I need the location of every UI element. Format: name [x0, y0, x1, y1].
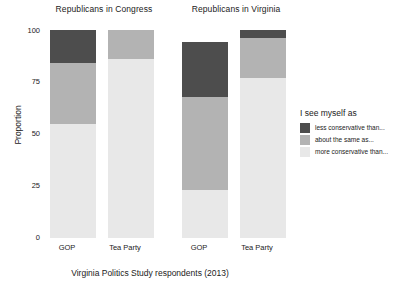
- legend-item-0[interactable]: less conservative than...: [300, 122, 406, 133]
- segment-more-conservative: [240, 78, 286, 238]
- legend-items: less conservative than...about the same …: [300, 122, 406, 157]
- x-tick-congress-gop: GOP: [37, 243, 97, 252]
- stacked-bar-chart: Republicans in Congress Republicans in V…: [0, 0, 408, 292]
- segment-about-same: [108, 30, 154, 59]
- y-axis-label: Proportion: [13, 85, 23, 165]
- segment-less-conservative: [50, 30, 96, 63]
- legend-item-2[interactable]: more conservative than...: [300, 146, 406, 157]
- y-tick-0: 0: [24, 233, 40, 242]
- x-tick-congress-tea-party: Tea Party: [95, 243, 155, 252]
- x-tick-virginia-tea-party: Tea Party: [227, 243, 287, 252]
- x-tick-virginia-gop: GOP: [169, 243, 229, 252]
- legend-swatch-icon: [300, 135, 310, 145]
- legend-swatch-icon: [300, 147, 310, 157]
- segment-more-conservative: [108, 59, 154, 238]
- y-tick-100: 100: [24, 26, 40, 35]
- panel-title-virginia: Republicans in Virginia: [176, 4, 296, 14]
- legend: I see myself as less conservative than..…: [300, 108, 406, 158]
- bar-congress-gop: [50, 30, 96, 238]
- segment-less-conservative: [240, 30, 286, 38]
- panel-congress: [44, 30, 166, 238]
- segment-about-same: [240, 38, 286, 78]
- legend-item-label: more conservative than...: [315, 148, 388, 155]
- segment-more-conservative: [50, 124, 96, 238]
- legend-title: I see myself as: [300, 108, 406, 118]
- legend-item-label: about the same as...: [315, 136, 374, 143]
- y-tick-75: 75: [24, 77, 40, 86]
- panel-virginia: [176, 30, 298, 238]
- y-tick-50: 50: [24, 129, 40, 138]
- segment-about-same: [182, 97, 228, 191]
- legend-item-1[interactable]: about the same as...: [300, 134, 406, 145]
- segment-less-conservative: [182, 42, 228, 96]
- legend-item-label: less conservative than...: [315, 124, 385, 131]
- segment-more-conservative: [182, 190, 228, 238]
- bar-virginia-tea-party: [240, 30, 286, 238]
- x-axis-label: Virginia Politics Study respondents (201…: [0, 268, 300, 278]
- bar-congress-tea-party: [108, 30, 154, 238]
- panel-title-congress: Republicans in Congress: [44, 4, 164, 14]
- bar-virginia-gop: [182, 42, 228, 238]
- legend-swatch-icon: [300, 123, 310, 133]
- y-tick-25: 25: [24, 181, 40, 190]
- segment-about-same: [50, 63, 96, 123]
